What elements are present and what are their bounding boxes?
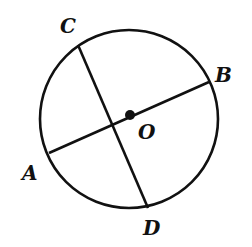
label-b: B xyxy=(214,63,232,87)
circle-diagram: C B O A D xyxy=(0,0,252,247)
label-d: D xyxy=(142,216,161,240)
label-c: C xyxy=(60,14,76,38)
label-a: A xyxy=(20,161,38,185)
label-o: O xyxy=(138,120,156,144)
center-point-o xyxy=(125,110,135,120)
